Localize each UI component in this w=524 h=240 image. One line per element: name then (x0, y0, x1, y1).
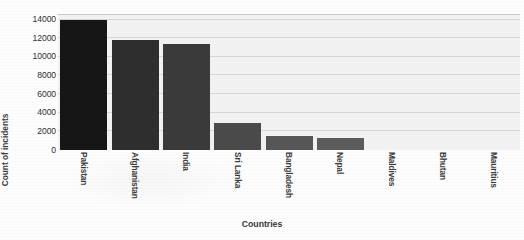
x-axis-tick-labels: PakistanAfghanistanIndiaSri LankaBanglad… (58, 150, 520, 220)
bar (214, 123, 261, 150)
x-axis-tick-label: Bangladesh (284, 152, 294, 198)
x-axis-tick: Sri Lanka (212, 150, 263, 218)
x-axis-title-text: Countries (242, 219, 283, 229)
bar (317, 138, 364, 150)
x-axis-tick: Mauritius (469, 150, 520, 218)
x-axis-tick: Bhutan (417, 150, 468, 218)
x-axis-tick: Pakistan (58, 150, 109, 218)
bar (60, 20, 107, 150)
y-axis-tick-label: 2000 (4, 127, 56, 136)
x-axis-tick-label: Afghanistan (130, 152, 140, 199)
x-axis-tick: India (161, 150, 212, 218)
x-axis-tick-label: Mauritius (489, 152, 499, 188)
bar (266, 136, 313, 150)
y-axis-tick-label: 6000 (4, 90, 56, 99)
y-axis-tick-label: 0 (4, 146, 56, 155)
x-axis-title: Countries (0, 219, 524, 229)
bar-chart-figure: Count of incidents 020004000600080001000… (0, 0, 524, 240)
x-axis-tick-label: India (181, 152, 191, 171)
x-axis-tick-label: Bhutan (438, 152, 448, 180)
x-axis-tick-label: Nepal (335, 152, 345, 174)
x-axis-tick: Nepal (315, 150, 366, 218)
bar-series (58, 15, 520, 150)
y-axis-tick-label: 8000 (4, 71, 56, 80)
x-axis-tick-label: Sri Lanka (233, 152, 243, 188)
x-axis-tick-label: Maldives (387, 152, 397, 186)
x-axis-tick: Maldives (366, 150, 417, 218)
y-axis-tick-label: 12000 (4, 34, 56, 43)
x-axis-tick: Afghanistan (109, 150, 160, 218)
y-axis-tick-label: 10000 (4, 52, 56, 61)
bar (163, 44, 210, 150)
y-axis-tick-labels: 02000400060008000100001200014000 (0, 0, 56, 240)
y-axis-tick-label: 4000 (4, 108, 56, 117)
x-axis-tick: Bangladesh (263, 150, 314, 218)
x-axis-tick-label: Pakistan (79, 152, 89, 185)
y-axis-tick-label: 14000 (4, 15, 56, 24)
bar (112, 40, 159, 150)
plot-area (58, 14, 520, 150)
